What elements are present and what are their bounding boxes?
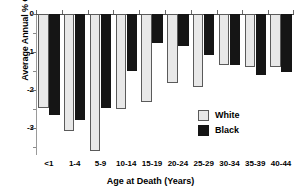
x-axis-title: Age at Death (Years) [0, 176, 301, 186]
bar-white-40-44 [270, 14, 280, 67]
bar-white-5-9 [90, 14, 100, 151]
plot-area [36, 14, 294, 155]
bar-black-1-4 [75, 14, 85, 120]
x-axis-tick-label: 30-34 [217, 159, 243, 168]
x-axis-tick-label: 25-29 [191, 159, 217, 168]
bar-black-5-9 [101, 14, 111, 108]
bar-black-30-34 [230, 14, 240, 65]
bar-black-10-14 [127, 14, 137, 71]
chart-figure: Average Annual % Change 0-1-2-3 Age at D… [0, 0, 301, 195]
legend-item-white: White [198, 108, 240, 123]
bar-group [165, 14, 191, 155]
bar-black-15-19 [152, 14, 162, 43]
bar-group [268, 14, 294, 155]
bar-white-15-19 [141, 14, 151, 102]
x-axis-tick-label: 1-4 [62, 159, 88, 168]
x-axis-tick-label: 20-24 [165, 159, 191, 168]
bar-group [113, 14, 139, 155]
bar-white-1-4 [64, 14, 74, 131]
legend-item-black: Black [198, 123, 240, 138]
bar-group [62, 14, 88, 155]
black-swatch-icon [198, 125, 209, 136]
y-axis-tick-labels: 0-1-2-3 [12, 0, 34, 195]
x-axis-tick-label: <1 [36, 159, 62, 168]
bar-group [139, 14, 165, 155]
bar-white-10-14 [116, 14, 126, 109]
x-axis-tick-label: 35-39 [242, 159, 268, 168]
x-axis-tick-label: 5-9 [88, 159, 114, 168]
bar-group [36, 14, 62, 155]
bar-white-25-29 [193, 14, 203, 87]
x-axis-tick [293, 10, 294, 14]
x-axis-tick-label: 10-14 [113, 159, 139, 168]
bar-group [88, 14, 114, 155]
white-swatch-icon [198, 110, 209, 121]
x-axis-tick-label: 15-19 [139, 159, 165, 168]
chart-legend: White Black [198, 108, 240, 138]
bar-white-<1 [38, 14, 48, 108]
bar-black-<1 [49, 14, 59, 115]
bar-black-40-44 [281, 14, 291, 72]
bar-white-30-34 [219, 14, 229, 65]
bar-white-20-24 [167, 14, 177, 83]
legend-label-black: Black [215, 125, 239, 136]
x-axis-tick-label: 40-44 [268, 159, 294, 168]
bar-black-35-39 [256, 14, 266, 75]
legend-label-white: White [215, 110, 240, 121]
bar-group [242, 14, 268, 155]
bar-black-20-24 [178, 14, 188, 46]
bar-black-25-29 [204, 14, 214, 55]
bar-white-35-39 [245, 14, 255, 67]
